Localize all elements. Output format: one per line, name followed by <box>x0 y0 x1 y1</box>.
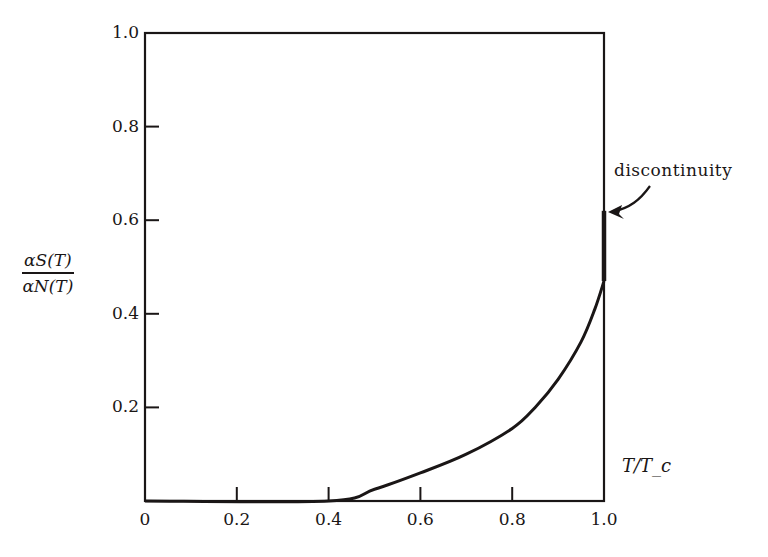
axis-ticks <box>145 127 512 501</box>
x-tick-label: 0.4 <box>304 509 354 529</box>
arrowhead-icon <box>608 205 624 219</box>
discontinuity-annotation: discontinuity <box>614 160 732 180</box>
y-tick-label: 1.0 <box>79 22 139 42</box>
data-curve <box>145 281 604 502</box>
y-label-denominator: αN(T) <box>22 274 74 296</box>
y-tick-label: 0.2 <box>79 396 139 416</box>
x-tick-label: 0.2 <box>212 509 262 529</box>
x-tick-label: 0.6 <box>395 509 445 529</box>
y-tick-label: 0.4 <box>79 303 139 323</box>
y-tick-label: 0.6 <box>79 209 139 229</box>
y-tick-label: 0.8 <box>79 116 139 136</box>
x-tick-label: 1.0 <box>579 509 629 529</box>
y-axis-label: αS(T) αN(T) <box>22 250 74 296</box>
x-tick-label: 0 <box>120 509 170 529</box>
plot-frame <box>145 33 604 501</box>
x-tick-label: 0.8 <box>487 509 537 529</box>
y-label-numerator: αS(T) <box>22 250 74 274</box>
x-axis-label: T/T_c <box>622 455 671 476</box>
